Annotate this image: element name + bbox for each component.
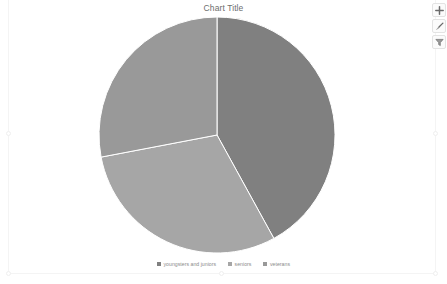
- legend-swatch-youngsters-and-juniors: [157, 262, 161, 266]
- legend-item-youngsters-and-juniors[interactable]: youngsters and juniors: [157, 261, 216, 267]
- legend-label-seniors: seniors: [235, 261, 252, 267]
- pie-chart-svg: [0, 0, 447, 284]
- legend-label-youngsters-and-juniors: youngsters and juniors: [163, 261, 216, 267]
- legend-item-seniors[interactable]: seniors: [228, 261, 251, 267]
- chart-legend[interactable]: youngsters and juniors seniors veterans: [0, 261, 447, 267]
- chart-filters-button[interactable]: [432, 35, 446, 49]
- pie-slice-group: [99, 17, 335, 253]
- plus-icon: [435, 6, 444, 15]
- funnel-filter-icon: [435, 38, 444, 47]
- chart-side-buttons: [432, 3, 446, 49]
- legend-swatch-seniors: [228, 262, 232, 266]
- paintbrush-icon: [435, 22, 444, 31]
- legend-label-veterans: veterans: [270, 261, 290, 267]
- chart-elements-button[interactable]: [432, 3, 446, 17]
- legend-swatch-veterans: [263, 262, 267, 266]
- pie-plot-area[interactable]: [0, 0, 447, 284]
- chart-styles-button[interactable]: [432, 19, 446, 33]
- legend-item-veterans[interactable]: veterans: [263, 261, 290, 267]
- pie-slice[interactable]: [99, 17, 217, 157]
